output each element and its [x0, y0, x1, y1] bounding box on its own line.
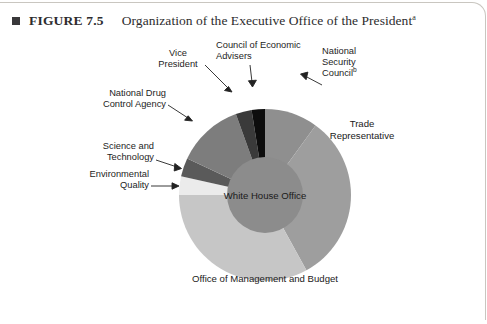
- label-vice-president: Vice President: [150, 48, 206, 70]
- leader-line-cea: [250, 65, 252, 82]
- label-trade-rep-line2: Representative: [316, 130, 408, 142]
- arrowhead-science-tech: [174, 164, 181, 172]
- label-science-tech-line1: Science and: [82, 141, 154, 152]
- title-footnote-marker: a: [412, 13, 416, 22]
- label-national-security-council: National Security Councilb: [322, 46, 392, 80]
- label-nsc-line2: Security: [322, 57, 392, 68]
- figure-number: FIGURE 7.5: [29, 13, 104, 29]
- square-bullet-icon: [12, 17, 20, 25]
- arrowhead-cea: [248, 80, 256, 87]
- arrowhead-environmental-quality: [172, 183, 179, 189]
- arrowhead-vice-president: [225, 87, 233, 93]
- label-nsc-line3: Councilb: [322, 68, 392, 79]
- leader-line-science-tech: [156, 160, 177, 167]
- label-science-and-technology: Science and Technology: [82, 141, 154, 163]
- label-vice-president-line2: President: [150, 59, 206, 70]
- label-trade-representative: Trade Representative: [316, 118, 408, 141]
- label-white-house-office: White House Office: [205, 190, 325, 202]
- label-council-economic-advisers: Council of Economic Advisers: [216, 40, 320, 62]
- label-nsc-footnote-marker: b: [353, 66, 357, 73]
- label-environmental-quality: Environmental Quality: [62, 169, 149, 191]
- label-nsc-line1: National: [322, 46, 392, 57]
- label-white-house-office-text: White House Office: [205, 190, 325, 202]
- label-drug-agency-line2: Control Agency: [74, 99, 166, 110]
- label-environmental-line2: Quality: [62, 180, 149, 191]
- label-science-tech-line2: Technology: [82, 152, 154, 163]
- leader-line-drug-agency: [168, 105, 188, 118]
- label-cea-line2: Advisers: [216, 51, 320, 62]
- arrowhead-nsc: [301, 72, 308, 80]
- chart-area: Vice President Council of Economic Advis…: [0, 30, 487, 324]
- leader-line-nsc: [305, 76, 322, 85]
- label-vice-president-line1: Vice: [150, 48, 206, 59]
- label-national-drug-control-agency: National Drug Control Agency: [74, 88, 166, 110]
- label-trade-rep-line1: Trade: [316, 118, 408, 130]
- figure-title-text: Organization of the Executive Office of …: [122, 13, 412, 28]
- figure-page: FIGURE 7.5 Organization of the Executive…: [0, 0, 487, 324]
- label-nsc-line3-text: Council: [322, 68, 353, 78]
- page-title: Organization of the Executive Office of …: [122, 13, 416, 29]
- label-omb-text: Office of Management and Budget: [165, 273, 365, 285]
- label-cea-line1: Council of Economic: [216, 40, 320, 51]
- label-office-of-management-and-budget: Office of Management and Budget: [165, 273, 365, 285]
- leader-line-vice-president: [205, 65, 228, 88]
- label-drug-agency-line1: National Drug: [74, 88, 166, 99]
- label-environmental-line1: Environmental: [62, 169, 149, 180]
